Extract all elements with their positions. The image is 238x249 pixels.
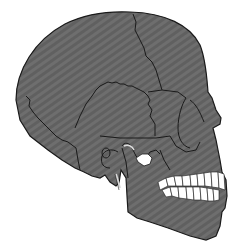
skull-illustration — [0, 0, 238, 249]
skull-svg — [0, 0, 238, 249]
skull-silhouette — [16, 12, 227, 240]
